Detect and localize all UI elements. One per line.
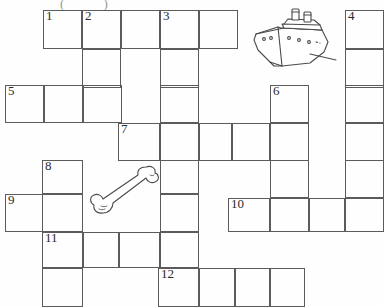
grid-cell-r6c7[interactable]: 10 xyxy=(228,198,270,232)
grid-cell-r2c10[interactable] xyxy=(345,49,384,88)
grid-cell-r1c2[interactable]: 1 xyxy=(43,10,82,49)
grid-cell-r6c9[interactable] xyxy=(309,198,345,232)
clue-number-9: 9 xyxy=(8,193,15,207)
grid-cell-r6c10[interactable] xyxy=(345,198,384,232)
clue-number-11: 11 xyxy=(45,231,58,245)
grid-cell-r7c2[interactable]: 11 xyxy=(42,232,83,268)
clue-number-8: 8 xyxy=(45,159,52,173)
bone-illustration xyxy=(83,163,163,223)
grid-cell-r6c5[interactable] xyxy=(160,194,199,232)
grid-cell-r7c5[interactable] xyxy=(160,232,199,268)
grid-cell-r3c5[interactable] xyxy=(160,85,199,123)
grid-cell-r1c4[interactable] xyxy=(121,10,160,49)
grid-cell-r8c8[interactable] xyxy=(270,268,305,307)
grid-cell-r3c8[interactable]: 6 xyxy=(270,85,309,123)
grid-cell-r8c5[interactable]: 12 xyxy=(158,268,199,307)
grid-cell-r4c10[interactable] xyxy=(345,123,384,161)
grid-cell-r8c2[interactable] xyxy=(42,268,83,307)
grid-cell-r8c6[interactable] xyxy=(199,268,235,307)
clue-number-1: 1 xyxy=(46,9,53,23)
grid-cell-r6c2[interactable] xyxy=(42,194,83,232)
grid-cell-r1c10[interactable]: 4 xyxy=(345,10,384,49)
clue-number-3: 3 xyxy=(163,9,170,23)
grid-cell-r4c7[interactable] xyxy=(232,123,270,161)
grid-cell-r1c6[interactable] xyxy=(199,10,238,49)
clue-number-12: 12 xyxy=(161,267,174,281)
grid-cell-r2c3[interactable] xyxy=(82,49,121,88)
clue-number-6: 6 xyxy=(273,84,280,98)
grid-cell-r2c5[interactable] xyxy=(160,49,199,88)
grid-cell-r3c10[interactable] xyxy=(345,85,384,123)
grid-cell-r1c3[interactable]: 2 xyxy=(82,10,121,49)
grid-cell-r8c7[interactable] xyxy=(235,268,270,307)
clue-number-7: 7 xyxy=(121,122,128,136)
grid-cell-r4c6[interactable] xyxy=(199,123,232,161)
grid-cell-r7c4[interactable] xyxy=(119,232,160,268)
grid-cell-r5c2[interactable]: 8 xyxy=(42,160,83,194)
grid-cell-r6c8[interactable] xyxy=(270,198,309,232)
grid-cell-r7c3[interactable] xyxy=(83,232,119,268)
grid-cell-r1c5[interactable]: 3 xyxy=(160,10,199,49)
grid-cell-r3c2[interactable] xyxy=(44,85,83,123)
clue-number-5: 5 xyxy=(8,84,15,98)
grid-cell-r6c1[interactable]: 9 xyxy=(5,194,43,232)
clue-number-10: 10 xyxy=(231,197,244,211)
grid-cell-r5c10[interactable] xyxy=(345,160,384,198)
grid-cell-r3c1[interactable]: 5 xyxy=(5,85,44,123)
grid-cell-r4c4[interactable]: 7 xyxy=(118,123,160,161)
grid-cell-r5c5[interactable] xyxy=(160,160,199,194)
grid-cell-r4c8[interactable] xyxy=(270,123,309,161)
grid-cell-r4c5[interactable] xyxy=(160,123,199,161)
ship-illustration xyxy=(248,6,338,72)
clue-number-2: 2 xyxy=(85,9,92,23)
grid-cell-r5c8[interactable] xyxy=(270,160,309,198)
grid-cell-r3c3[interactable] xyxy=(83,85,122,123)
clue-number-4: 4 xyxy=(348,9,355,23)
